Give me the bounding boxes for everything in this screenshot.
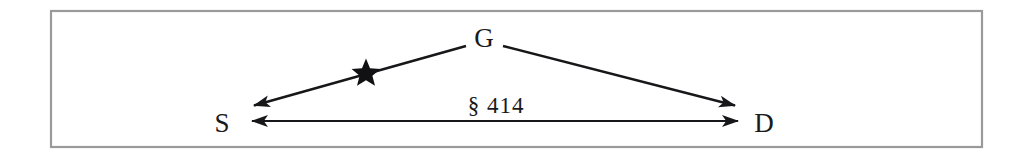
edge-label-section-414: § 414 bbox=[468, 93, 525, 118]
node-label-s: S bbox=[214, 108, 229, 138]
diagram-figure: G S D § 414 bbox=[0, 0, 1026, 161]
diagram-canvas: G S D § 414 bbox=[0, 0, 1026, 161]
node-label-g: G bbox=[474, 23, 494, 53]
node-label-d: D bbox=[754, 108, 774, 138]
diagram-border bbox=[51, 11, 982, 147]
